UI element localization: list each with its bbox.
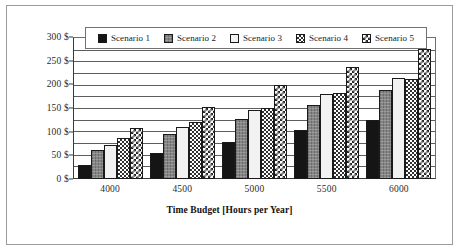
bar [294,130,307,179]
legend-label: Scenario 2 [177,33,216,43]
bar [346,67,359,179]
bar-groups [74,37,435,179]
legend-swatch-icon [296,34,305,43]
legend-label: Scenario 5 [375,33,414,43]
x-axis-title: Time Budget [Hours per Year] [7,205,452,215]
bar [78,165,91,179]
legend-swatch-icon [164,34,173,43]
bar [235,119,248,179]
x-axis-tick-label: 4500 [146,184,218,194]
bar [222,142,235,179]
legend-swatch-icon [362,34,371,43]
bar-group-4000 [74,37,146,179]
bar [320,94,333,179]
y-axis-ticks [7,37,73,179]
x-axis-tick-label: 6000 [363,184,435,194]
bar [130,128,143,179]
bar [261,108,274,179]
bar [333,93,346,179]
bar [104,145,117,179]
bar-group-5500 [291,37,363,179]
legend-label: Scenario 1 [111,33,150,43]
legend-swatch-icon [230,34,239,43]
bar [150,153,163,179]
bar [248,110,261,179]
legend-item-scenario-3: Scenario 3 [230,33,282,43]
x-axis-labels: 4000 4500 5000 5500 6000 [74,184,435,194]
bar [163,134,176,179]
chart-figure: 300 $ 250 $ 200 $ 150 $ 100 $ 50 $ 0 $ 4… [6,5,453,245]
bar [405,79,418,179]
bar-group-4500 [146,37,218,179]
bar [176,127,189,179]
bar [274,85,287,179]
bar [379,90,392,179]
legend-item-scenario-2: Scenario 2 [164,33,216,43]
bar-group-6000 [363,37,435,179]
legend-item-scenario-4: Scenario 4 [296,33,348,43]
x-axis-tick-label: 5000 [218,184,290,194]
bar [307,105,320,179]
legend-swatch-icon [98,34,107,43]
bar [91,150,104,179]
bar [392,78,405,179]
legend-label: Scenario 4 [309,33,348,43]
bar-group-5000 [218,37,290,179]
chart-legend: Scenario 1 Scenario 2 Scenario 3 Scenari… [85,27,427,49]
legend-item-scenario-1: Scenario 1 [98,33,150,43]
x-axis-tick-label: 4000 [74,184,146,194]
bar [117,138,130,179]
legend-label: Scenario 3 [243,33,282,43]
bar [418,49,431,179]
x-axis-tick-label: 5500 [291,184,363,194]
bar [189,122,202,179]
bar [202,107,215,179]
bar [366,120,379,179]
legend-item-scenario-5: Scenario 5 [362,33,414,43]
